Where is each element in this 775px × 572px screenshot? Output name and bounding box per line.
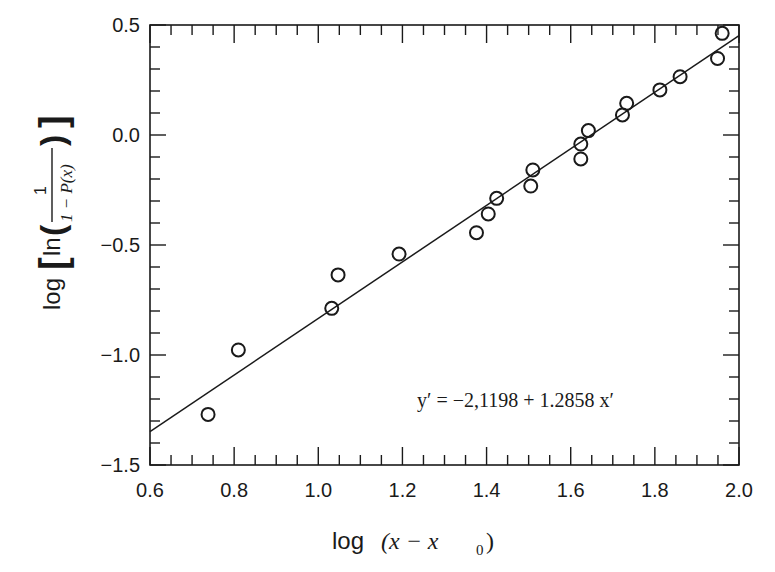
data-point-marker	[393, 248, 406, 261]
x-tick-label: 0.6	[136, 479, 164, 501]
data-point-marker	[574, 152, 587, 165]
data-points	[202, 27, 729, 421]
y-tick-label: 0.0	[112, 124, 140, 146]
y-axis-label-bracket-close: ]	[32, 115, 74, 128]
data-point-marker	[332, 268, 345, 281]
x-axis-label-close: )	[486, 528, 494, 554]
y-tick-label: −1.0	[101, 344, 140, 366]
data-point-marker	[711, 52, 724, 65]
y-axis-label-log: log	[38, 278, 65, 310]
data-point-marker	[524, 180, 537, 193]
x-tick-label: 0.8	[220, 479, 248, 501]
x-tick-label: 1.6	[557, 479, 585, 501]
x-axis-label: log (x − x 0 )	[332, 527, 494, 558]
x-tick-label: 1.4	[473, 479, 501, 501]
x-axis-label-expr: (x − x	[381, 528, 439, 554]
data-point-marker	[470, 226, 483, 239]
x-axis-label-subscript: 0	[476, 542, 484, 558]
y-tick-label: 0.5	[112, 14, 140, 36]
y-axis-tick-labels: −1.5−1.0−0.50.00.5	[101, 14, 140, 476]
y-axis-label-ln: ln	[38, 237, 65, 256]
data-point-marker	[574, 138, 587, 151]
x-tick-label: 1.8	[641, 479, 669, 501]
x-tick-label: 1.2	[389, 479, 417, 501]
fit-line	[150, 36, 739, 432]
x-tick-label: 2.0	[725, 479, 753, 501]
fit-equation: y′ = −2,1198 + 1.2858 x′	[417, 389, 614, 412]
data-point-marker	[674, 70, 687, 83]
data-point-marker	[232, 343, 245, 356]
y-axis-label-denominator: 1 − P(x)	[57, 164, 76, 222]
y-tick-label: −0.5	[101, 234, 140, 256]
data-point-marker	[325, 302, 338, 315]
y-axis-label: log [ ln ( 1 1 − P(x) ) ]	[32, 115, 76, 310]
x-axis-tick-labels: 0.60.81.01.21.41.61.82.0	[136, 479, 753, 501]
scatter-chart: 0.60.81.01.21.41.61.82.0 −1.5−1.0−0.50.0…	[0, 0, 775, 572]
data-point-marker	[653, 83, 666, 96]
data-point-marker	[482, 207, 495, 220]
x-axis-label-log: log	[332, 527, 364, 554]
y-axis-label-bracket-open: [	[32, 257, 74, 270]
y-axis-label-paren-close: )	[33, 135, 71, 146]
data-point-marker	[202, 408, 215, 421]
data-point-marker	[620, 97, 633, 110]
y-axis-label-numerator: 1	[32, 186, 49, 195]
y-axis-label-paren-open: (	[33, 224, 71, 236]
y-tick-label: −1.5	[101, 454, 140, 476]
data-point-marker	[582, 124, 595, 137]
x-tick-label: 1.0	[304, 479, 332, 501]
regression-line	[150, 36, 739, 432]
